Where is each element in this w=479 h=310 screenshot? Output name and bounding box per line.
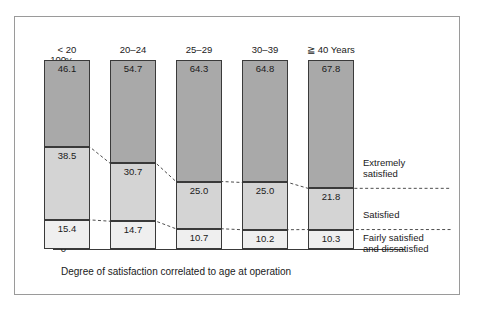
bar-segment-extremely-satisfied-0[interactable]: 46.1	[44, 60, 90, 147]
bar-segment-fairly-satisfied-4[interactable]: 10.3	[308, 230, 354, 249]
bar-segment-fairly-satisfied-2[interactable]: 10.7	[176, 229, 222, 249]
bar-value-label-extremely-satisfied-1: 54.7	[124, 63, 143, 74]
bar-value-label-satisfied-0: 38.5	[58, 150, 77, 161]
chart-caption: Degree of satisfaction correlated to age…	[61, 266, 291, 278]
category-label-2: 25–29	[164, 44, 234, 55]
bar-value-label-fairly-satisfied-0: 15.4	[58, 223, 77, 234]
legend-label-satisfied: Satisfied	[363, 209, 399, 220]
bar-segment-satisfied-1[interactable]: 30.7	[110, 163, 156, 221]
chart-plot-area: 100 50 0 % < 20 20–24 25–29 30–39 ≧ 40 Y…	[15, 17, 461, 296]
bar-value-label-extremely-satisfied-2: 64.3	[190, 63, 209, 74]
bar-segment-fairly-satisfied-1[interactable]: 14.7	[110, 221, 156, 249]
bar-value-label-fairly-satisfied-1: 14.7	[124, 224, 143, 235]
category-label-1: 20–24	[98, 44, 168, 55]
bar-value-label-satisfied-4: 21.8	[322, 191, 341, 202]
bar-segment-fairly-satisfied-0[interactable]: 15.4	[44, 220, 90, 249]
bar-segment-satisfied-4[interactable]: 21.8	[308, 188, 354, 229]
legend-label-extremely-satisfied-line1: Extremely	[363, 157, 405, 168]
x-axis-baseline	[59, 249, 405, 250]
category-label-0: < 20	[32, 44, 102, 55]
bar-segment-satisfied-3[interactable]: 25.0	[242, 182, 288, 229]
bar-value-label-satisfied-1: 30.7	[124, 166, 143, 177]
bar-segment-satisfied-2[interactable]: 25.0	[176, 182, 222, 229]
category-label-3: 30–39	[230, 44, 300, 55]
bar-value-label-extremely-satisfied-3: 64.8	[256, 63, 275, 74]
bar-value-label-extremely-satisfied-0: 46.1	[58, 63, 77, 74]
category-label-4: ≧ 40 Years	[296, 44, 366, 55]
legend-label-fairly-satisfied-line2: and dissatisfied	[363, 243, 428, 254]
bar-segment-extremely-satisfied-1[interactable]: 54.7	[110, 60, 156, 163]
bar-segment-fairly-satisfied-3[interactable]: 10.2	[242, 230, 288, 249]
bar-segment-extremely-satisfied-3[interactable]: 64.8	[242, 60, 288, 182]
bar-segment-extremely-satisfied-4[interactable]: 67.8	[308, 60, 354, 188]
bar-segment-extremely-satisfied-2[interactable]: 64.3	[176, 60, 222, 182]
bar-value-label-satisfied-3: 25.0	[256, 185, 275, 196]
bar-segment-satisfied-0[interactable]: 38.5	[44, 147, 90, 220]
bar-value-label-satisfied-2: 25.0	[190, 185, 209, 196]
bar-value-label-fairly-satisfied-4: 10.3	[322, 233, 341, 244]
legend-label-extremely-satisfied-line2: satisfied	[363, 168, 398, 179]
figure-frame: 100 50 0 % < 20 20–24 25–29 30–39 ≧ 40 Y…	[14, 16, 460, 295]
bar-value-label-extremely-satisfied-4: 67.8	[322, 63, 341, 74]
bar-value-label-fairly-satisfied-2: 10.7	[190, 232, 209, 243]
bar-value-label-fairly-satisfied-3: 10.2	[256, 233, 275, 244]
legend-label-fairly-satisfied-line1: Fairly satisfied	[363, 232, 424, 243]
